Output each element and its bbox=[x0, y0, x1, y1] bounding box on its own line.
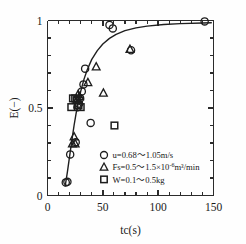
legend-label: W=0.1～0.5kg bbox=[113, 175, 166, 185]
data-point-triangle bbox=[92, 63, 100, 70]
legend-marker-square bbox=[101, 176, 107, 182]
data-point-square bbox=[111, 122, 118, 129]
data-point-triangle bbox=[100, 89, 108, 96]
legend-marker-triangle bbox=[100, 163, 108, 170]
legend-label: u=0.68～1.05m/s bbox=[113, 150, 174, 160]
legend-entry-square: W=0.1～0.5kg bbox=[101, 175, 165, 185]
x-tick-label: 100 bbox=[150, 201, 168, 213]
legend-entry-circle: u=0.68～1.05m/s bbox=[101, 150, 174, 160]
series-circle bbox=[62, 18, 208, 186]
x-tick-label: 0 bbox=[45, 201, 51, 213]
x-tick-label: 50 bbox=[97, 201, 109, 213]
figure-container: 05010015000.51 tc(s)E(−) u=0.68～1.05m/sF… bbox=[0, 0, 246, 244]
scatter-plot: 05010015000.51 tc(s)E(−) u=0.68～1.05m/sF… bbox=[0, 0, 246, 244]
y-axis-title: E(−) bbox=[8, 97, 21, 118]
legend-entry-triangle: Fs=0.5～1.5×10-6m³/min bbox=[100, 162, 200, 172]
chart-legend: u=0.68～1.05m/sFs=0.5～1.5×10-6m³/minW=0.1… bbox=[100, 150, 200, 184]
data-markers bbox=[62, 18, 208, 186]
x-axis-title: tc(s) bbox=[120, 224, 141, 237]
x-tick-label: 150 bbox=[205, 201, 223, 213]
data-point-circle bbox=[87, 119, 94, 126]
legend-label: Fs=0.5～1.5×10-6m³/min bbox=[113, 162, 201, 172]
data-point-triangle bbox=[84, 78, 92, 85]
y-tick-label: 0.5 bbox=[28, 102, 43, 114]
legend-marker-circle bbox=[101, 152, 108, 159]
y-tick-label: 1 bbox=[37, 15, 43, 27]
y-tick-label: 0 bbox=[37, 190, 43, 202]
